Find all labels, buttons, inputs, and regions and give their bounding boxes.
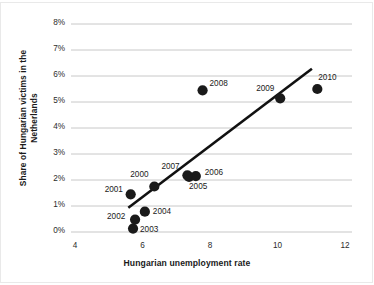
point-label-2007: 2007 bbox=[161, 162, 179, 171]
x-tick-label-6: 6 bbox=[131, 241, 155, 250]
scatter-chart: Share of Hungarian victims in the Nether… bbox=[0, 0, 374, 285]
point-label-2003: 2003 bbox=[140, 225, 158, 234]
y-tick-label-6%: 6% bbox=[35, 70, 65, 79]
y-tick-label-8%: 8% bbox=[35, 18, 65, 27]
data-point-2002[interactable] bbox=[130, 214, 140, 224]
x-tick-label-8: 8 bbox=[198, 241, 222, 250]
x-tick-label-12: 12 bbox=[333, 241, 357, 250]
plot-area bbox=[0, 0, 374, 285]
data-point-2009[interactable] bbox=[275, 93, 285, 103]
x-tick-label-4: 4 bbox=[63, 241, 87, 250]
y-tick-label-3%: 3% bbox=[35, 148, 65, 157]
point-label-2009: 2009 bbox=[256, 84, 274, 93]
point-label-2004: 2004 bbox=[153, 207, 171, 216]
point-label-2000: 2000 bbox=[130, 170, 148, 179]
data-point-2004[interactable] bbox=[140, 207, 150, 217]
data-point-2010[interactable] bbox=[312, 84, 322, 94]
point-label-2006: 2006 bbox=[205, 168, 223, 177]
y-tick-label-7%: 7% bbox=[35, 44, 65, 53]
y-tick-label-1%: 1% bbox=[35, 200, 65, 209]
y-tick-label-5%: 5% bbox=[35, 96, 65, 105]
data-point-2003[interactable] bbox=[128, 224, 138, 234]
x-tick-label-10: 10 bbox=[266, 241, 290, 250]
point-label-2008: 2008 bbox=[210, 79, 228, 88]
point-label-2010: 2010 bbox=[318, 73, 336, 82]
y-tick-label-2%: 2% bbox=[35, 174, 65, 183]
data-point-2001[interactable] bbox=[126, 189, 136, 199]
point-label-2002: 2002 bbox=[107, 212, 125, 221]
y-tick-label-0%: 0% bbox=[35, 226, 65, 235]
point-label-2001: 2001 bbox=[105, 185, 123, 194]
data-point-2007[interactable] bbox=[182, 170, 192, 180]
data-point-2000[interactable] bbox=[149, 181, 159, 191]
y-tick-label-4%: 4% bbox=[35, 122, 65, 131]
data-point-2008[interactable] bbox=[197, 85, 207, 95]
point-label-2005: 2005 bbox=[189, 182, 207, 191]
